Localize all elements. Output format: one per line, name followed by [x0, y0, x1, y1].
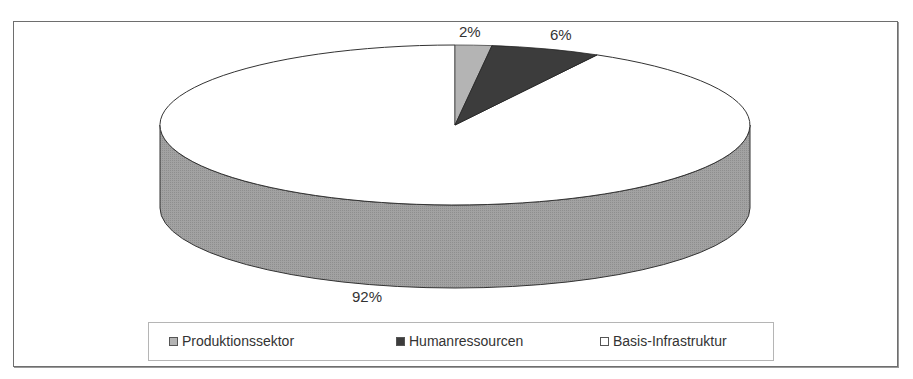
data-label-produktionssektor: 2% — [459, 23, 481, 40]
legend-item-basis-infrastruktur[interactable]: Basis-Infrastruktur — [600, 333, 727, 349]
data-label-humanressourcen: 6% — [550, 26, 572, 43]
legend-label: Produktionssektor — [182, 333, 294, 349]
legend: Produktionssektor Humanressourcen Basis-… — [148, 322, 774, 361]
legend-item-humanressourcen[interactable]: Humanressourcen — [396, 333, 523, 349]
legend-swatch-white-icon — [600, 337, 609, 346]
legend-swatch-light-gray-icon — [169, 337, 178, 346]
legend-label: Humanressourcen — [409, 333, 523, 349]
legend-label: Basis-Infrastruktur — [613, 333, 727, 349]
legend-swatch-dark-icon — [396, 337, 405, 346]
data-label-basis-infrastruktur: 92% — [352, 288, 382, 305]
legend-item-produktionssektor[interactable]: Produktionssektor — [169, 333, 294, 349]
